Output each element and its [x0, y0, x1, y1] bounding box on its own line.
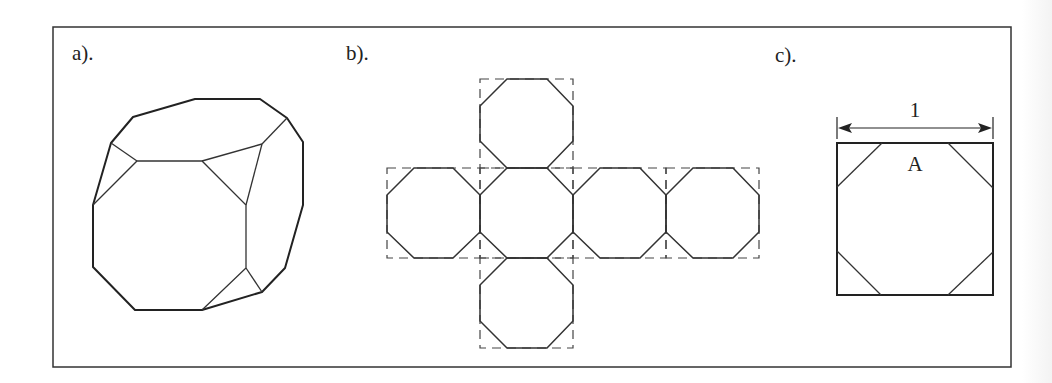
panel-b: b).	[346, 41, 759, 348]
octagon-center	[480, 168, 573, 258]
truncated-cube-3d	[93, 99, 303, 310]
net-octagons	[387, 79, 759, 348]
octagon-right	[573, 168, 666, 258]
panel-c-label: c).	[775, 43, 797, 67]
face-label-a: A	[907, 152, 923, 176]
panel-b-label: b).	[346, 41, 369, 65]
octagon-bottom	[480, 258, 573, 348]
octagon-top	[480, 79, 573, 168]
panel-a-label: a).	[72, 41, 94, 65]
octagon-far-right	[666, 168, 759, 258]
octagon-left	[387, 168, 480, 258]
figure-frame	[53, 27, 1011, 367]
dimension-label: 1	[910, 98, 921, 122]
figure-canvas: a). b).	[0, 0, 1052, 383]
panel-c: c). 1 A	[775, 43, 993, 295]
panel-a: a).	[72, 41, 303, 310]
